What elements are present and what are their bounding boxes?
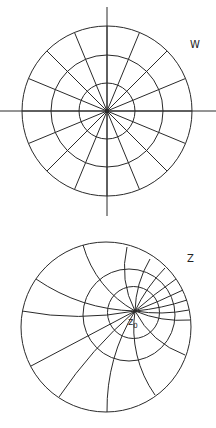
z-orthogonal-arc bbox=[135, 279, 176, 311]
w-ray bbox=[47, 111, 107, 171]
z-orthogonal-arc bbox=[125, 247, 135, 311]
w-plane-diagram bbox=[0, 7, 216, 216]
w-plane-label: W bbox=[190, 40, 200, 50]
z-orthogonal-arc bbox=[135, 300, 187, 311]
z-orthogonal-arc bbox=[135, 259, 150, 311]
z-orthogonal-arc bbox=[36, 279, 135, 311]
w-ray bbox=[107, 51, 167, 111]
z-orthogonal-arc bbox=[22, 311, 135, 316]
z-outer-circle bbox=[21, 242, 191, 412]
z-apollonius-circle bbox=[83, 269, 175, 361]
w-ray bbox=[47, 51, 107, 111]
z0-label-subscript: 0 bbox=[133, 322, 137, 330]
z-orthogonal-arc bbox=[59, 311, 135, 397]
z-plane-label: Z bbox=[187, 254, 194, 264]
z0-point bbox=[133, 309, 137, 313]
w-origin-dot bbox=[105, 109, 109, 113]
z0-point-label: z0 bbox=[128, 317, 138, 327]
w-ray bbox=[107, 111, 167, 171]
conformal-map-diagram bbox=[0, 0, 216, 428]
z-plane-diagram bbox=[21, 242, 191, 412]
z-orthogonal-arc bbox=[83, 245, 135, 311]
